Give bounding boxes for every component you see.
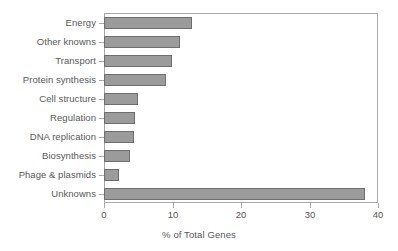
category-label: Protein synthesis xyxy=(0,74,96,86)
x-tick xyxy=(173,203,174,208)
bar xyxy=(104,17,192,29)
category-label: Transport xyxy=(0,55,96,67)
x-tick-label: 10 xyxy=(168,209,179,220)
bar xyxy=(104,74,166,86)
category-label: Other knowns xyxy=(0,36,96,48)
x-tick-label: 20 xyxy=(236,209,247,220)
bar xyxy=(104,131,134,143)
category-label: Regulation xyxy=(0,112,96,124)
category-label: Unknowns xyxy=(0,188,96,200)
bar xyxy=(104,93,138,105)
category-label: Cell structure xyxy=(0,93,96,105)
x-tick xyxy=(104,203,105,208)
bar xyxy=(104,169,119,181)
x-tick-label: 40 xyxy=(373,209,384,220)
x-tick xyxy=(310,203,311,208)
bar xyxy=(104,150,130,162)
category-label: Energy xyxy=(0,17,96,29)
x-tick xyxy=(378,203,379,208)
bar xyxy=(104,36,180,48)
x-axis-title: % of Total Genes xyxy=(0,229,398,240)
category-label: Phage & plasmids xyxy=(0,169,96,181)
category-label: Biosynthesis xyxy=(0,150,96,162)
bar xyxy=(104,55,172,67)
bar-chart: EnergyOther knownsTransportProtein synth… xyxy=(0,0,398,251)
x-tick xyxy=(241,203,242,208)
x-tick-label: 30 xyxy=(305,209,316,220)
x-tick-label: 0 xyxy=(101,209,106,220)
bar xyxy=(104,112,135,124)
bar xyxy=(104,188,365,200)
category-label: DNA replication xyxy=(0,131,96,143)
